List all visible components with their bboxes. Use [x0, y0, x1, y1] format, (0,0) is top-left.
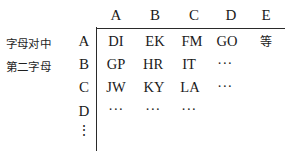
side-label-letter-pair: 字母对中: [6, 33, 78, 56]
cell-b-c: IT: [169, 53, 209, 75]
cell-c-b: KY: [134, 76, 174, 98]
cell-c-a: JW: [96, 76, 136, 98]
cell-c-c: LA: [170, 76, 210, 98]
cell-a-e-etc: 等: [246, 31, 286, 53]
row-header-b: B: [74, 53, 94, 75]
cell-a-b: EK: [135, 30, 175, 52]
column-header-d: D: [211, 4, 251, 26]
cell-b-d-ellipsis: ···: [205, 53, 245, 75]
cell-d-b-ellipsis: ···: [133, 99, 173, 121]
cell-a-c: FM: [172, 30, 212, 52]
row-header-ellipsis: ⋮: [74, 120, 94, 142]
cell-b-a: GP: [96, 53, 136, 75]
side-label-second-letter: 第二字母: [6, 56, 78, 79]
cell-b-b: HR: [133, 53, 173, 75]
cell-d-a-ellipsis: ···: [96, 99, 136, 121]
column-header-c: C: [174, 4, 214, 26]
column-header-a: A: [96, 4, 136, 26]
row-header-a: A: [74, 30, 94, 52]
row-header-d: D: [74, 100, 94, 122]
horizontal-axis-rule: [96, 28, 285, 29]
cell-a-d: GO: [207, 30, 247, 52]
side-label-group: 字母对中 第二字母: [6, 33, 78, 79]
letter-pair-matrix-figure: 字母对中 第二字母 A B C D E ··· A B C D ⋮ DI EK …: [0, 0, 287, 160]
cell-d-c-ellipsis: ···: [169, 99, 209, 121]
cell-c-d-ellipsis: ···: [205, 76, 245, 98]
column-header-ellipsis: ···: [278, 4, 287, 26]
row-header-c: C: [74, 76, 94, 98]
column-header-b: B: [135, 4, 175, 26]
cell-a-a: DI: [96, 30, 136, 52]
